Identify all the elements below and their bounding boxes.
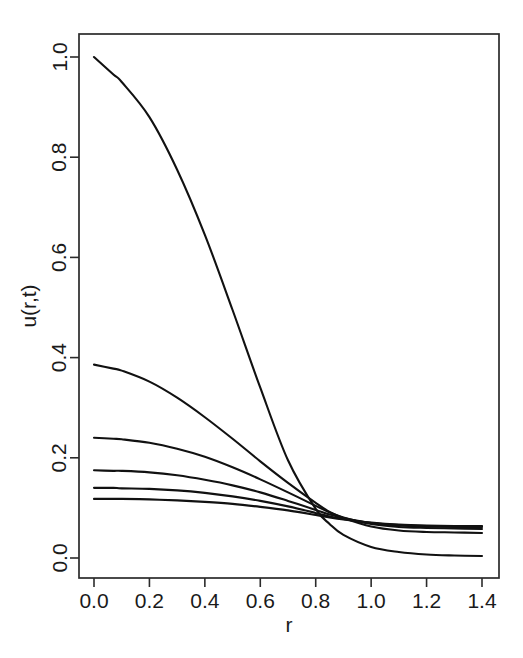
x-axis-tick-labels: 0.00.20.40.60.81.01.21.4 <box>79 589 497 612</box>
x-tick-label-4: 0.8 <box>301 589 330 612</box>
x-tick-label-2: 0.4 <box>190 589 220 612</box>
y-tick-label-0: 0.0 <box>48 543 71 572</box>
x-tick-label-6: 1.2 <box>412 589 441 612</box>
curve-t6 <box>94 499 482 526</box>
line-chart-plot: 0.00.20.40.60.81.01.21.4 0.00.20.40.60.8… <box>0 0 523 658</box>
y-tick-label-1: 0.2 <box>48 443 71 472</box>
y-axis-tick-labels: 0.00.20.40.60.81.0 <box>48 42 71 572</box>
x-axis-title: r <box>286 613 293 636</box>
x-axis-ticks <box>94 578 482 587</box>
data-curves <box>94 57 482 556</box>
curve-t2 <box>94 365 482 533</box>
chart-figure: 0.00.20.40.60.81.01.21.4 0.00.20.40.60.8… <box>0 0 523 658</box>
plot-frame <box>79 34 499 578</box>
y-tick-label-2: 0.4 <box>48 343 71 373</box>
curve-t5 <box>94 488 482 527</box>
y-tick-label-5: 1.0 <box>48 42 71 71</box>
x-tick-label-7: 1.4 <box>467 589 497 612</box>
x-tick-label-1: 0.2 <box>135 589 164 612</box>
x-tick-label-3: 0.6 <box>246 589 275 612</box>
y-tick-label-3: 0.6 <box>48 243 71 272</box>
plot-box-border <box>79 34 499 578</box>
y-axis-title: u(r,t) <box>17 284 40 327</box>
y-axis-ticks <box>70 57 79 558</box>
x-tick-label-0: 0.0 <box>79 589 108 612</box>
curve-t1 <box>94 57 482 556</box>
x-tick-label-5: 1.0 <box>357 589 386 612</box>
y-tick-label-4: 0.8 <box>48 143 71 172</box>
